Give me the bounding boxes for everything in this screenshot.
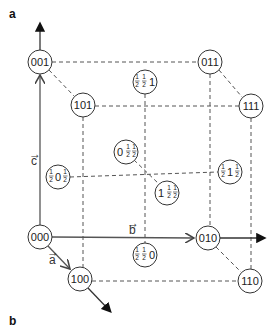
svg-text:2: 2: [135, 81, 139, 88]
crystal-lattice-diagram: → c → b → a 001 011 101 111 000 010 100 …: [0, 0, 280, 332]
svg-text:2: 2: [142, 81, 146, 88]
svg-text:1: 1: [135, 73, 139, 80]
node-0-half-half: 0 12 12: [114, 140, 138, 164]
svg-text:1: 1: [49, 168, 53, 175]
svg-text:1: 1: [221, 163, 225, 170]
node-111: 111: [239, 94, 263, 118]
svg-text:1: 1: [235, 163, 239, 170]
vector-c-label: → c: [29, 147, 41, 168]
svg-text:2: 2: [167, 192, 171, 199]
node-half-half-1: 12 12 1: [133, 70, 157, 94]
svg-text:011: 011: [201, 56, 219, 68]
svg-text:2: 2: [63, 176, 67, 183]
node-half-half-0: 12 12 0: [133, 243, 157, 267]
b-axis: [52, 237, 194, 238]
node-101: 101: [71, 93, 95, 117]
svg-text:1: 1: [149, 76, 155, 88]
svg-text:1: 1: [126, 143, 130, 150]
node-1-half-half: 1 12 12: [155, 181, 179, 205]
svg-text:1: 1: [158, 187, 164, 199]
svg-text:2: 2: [135, 254, 139, 261]
svg-text:1: 1: [173, 184, 177, 191]
svg-text:c: c: [31, 154, 37, 168]
svg-text:2: 2: [126, 151, 130, 158]
svg-text:1: 1: [167, 184, 171, 191]
svg-text:010: 010: [199, 232, 217, 244]
node-half-0-half: 12 0 12: [46, 165, 70, 189]
svg-text:2: 2: [49, 176, 53, 183]
svg-text:2: 2: [173, 192, 177, 199]
svg-text:001: 001: [31, 56, 49, 68]
svg-text:100: 100: [71, 273, 89, 285]
svg-text:1: 1: [132, 143, 136, 150]
svg-text:0: 0: [55, 171, 61, 183]
svg-text:0: 0: [149, 249, 155, 261]
svg-text:0: 0: [117, 146, 123, 158]
svg-text:110: 110: [241, 275, 259, 287]
svg-text:1: 1: [135, 246, 139, 253]
svg-text:1: 1: [227, 166, 233, 178]
svg-text:111: 111: [243, 100, 260, 112]
a-axis-extension: [88, 288, 110, 311]
svg-text:a: a: [49, 253, 56, 267]
svg-text:2: 2: [235, 171, 239, 178]
svg-text:2: 2: [221, 171, 225, 178]
vector-b-label: → b: [127, 216, 139, 237]
svg-text:1: 1: [142, 246, 146, 253]
node-000: 000: [28, 225, 52, 249]
svg-text:2: 2: [132, 151, 136, 158]
node-010: 010: [196, 226, 220, 250]
svg-text:1: 1: [142, 73, 146, 80]
svg-text:1: 1: [63, 168, 67, 175]
node-110: 110: [238, 269, 262, 293]
svg-text:101: 101: [74, 99, 92, 111]
vector-a-label: → a: [47, 245, 59, 267]
svg-text:2: 2: [142, 254, 146, 261]
node-half-1-half: 12 1 12: [218, 160, 242, 184]
node-011: 011: [198, 50, 222, 74]
node-100: 100: [68, 267, 92, 291]
node-001: 001: [28, 50, 52, 74]
svg-text:b: b: [129, 223, 136, 237]
svg-text:000: 000: [31, 231, 49, 243]
